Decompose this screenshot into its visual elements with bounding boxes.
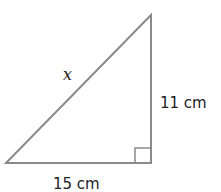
hypotenuse-label: x — [63, 65, 72, 84]
horizontal-leg-label: 15 cm — [53, 175, 100, 192]
right-angle-marker — [135, 148, 151, 163]
vertical-leg-label: 11 cm — [160, 94, 207, 112]
triangle — [6, 15, 151, 163]
right-triangle-diagram: x 11 cm 15 cm — [0, 0, 221, 192]
